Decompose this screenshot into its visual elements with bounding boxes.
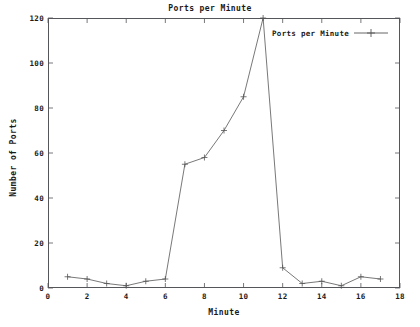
y-axis-tick-label: 20 (4, 239, 44, 248)
chart-container: Ports per Minute 020406080100120 0246810… (0, 0, 420, 327)
series-line-ports-per-minute (68, 18, 381, 286)
x-axis-tick-label: 12 (271, 292, 295, 301)
x-axis-tick-label: 14 (310, 292, 334, 301)
x-axis-ticks (48, 18, 400, 288)
x-axis-tick-label: 18 (388, 292, 412, 301)
x-axis-tick-label: 16 (349, 292, 373, 301)
plot-canvas (48, 18, 400, 288)
x-axis-tick-label: 6 (153, 292, 177, 301)
x-axis-tick-label: 10 (232, 292, 256, 301)
legend-line-marker-icon (354, 28, 388, 38)
chart-title: Ports per Minute (0, 4, 420, 13)
y-axis-tick-labels: 020406080100120 (0, 0, 44, 327)
chart-legend: Ports per Minute (272, 26, 388, 40)
y-axis-ticks (48, 18, 400, 288)
series-markers-ports-per-minute (65, 15, 384, 289)
y-axis-tick-label: 120 (4, 14, 44, 23)
y-axis-tick-label: 100 (4, 59, 44, 68)
x-axis-tick-label: 8 (192, 292, 216, 301)
y-axis-title: Number of Ports (9, 98, 18, 218)
x-axis-tick-label: 4 (114, 292, 138, 301)
x-axis-title: Minute (48, 308, 400, 317)
x-axis-tick-label: 0 (36, 292, 60, 301)
legend-entry-label: Ports per Minute (272, 29, 349, 38)
x-axis-tick-label: 2 (75, 292, 99, 301)
